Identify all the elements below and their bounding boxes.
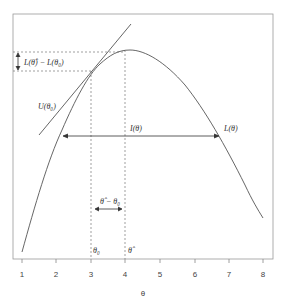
theta0-marker-label: θ₀ [93,246,100,255]
likelihood-diff-label: L(θ̂) − L(θ₀) [23,58,64,67]
thetahat-marker-label: θ̂ [128,246,135,255]
tick-label-8: 8 [261,270,266,279]
tick-label-7: 7 [227,270,232,279]
x-axis-label: θ [141,289,146,298]
tick-label-5: 5 [158,270,163,279]
likelihood-diagram: 1 2 3 4 5 6 7 8 θ L(θ̂) − L(θ₀) U(θ₀) I(… [0,0,283,302]
tick-label-6: 6 [193,270,198,279]
dashed-guides [13,50,125,259]
likelihood-curve-label: L(θ) [223,124,238,133]
tangent-line [39,24,131,135]
tick-label-1: 1 [20,270,25,279]
likelihood-diff-arrow [16,53,20,70]
likelihood-curve [22,50,263,252]
tick-label-4: 4 [123,270,128,279]
plot-frame [13,14,273,259]
information-arrow [63,134,219,138]
x-axis-tick-labels: 1 2 3 4 5 6 7 8 [20,270,266,279]
estimate-diff-arrow [95,207,122,211]
score-tangent-label: U(θ₀) [38,102,56,111]
x-axis-ticks [22,259,263,263]
estimate-diff-label: θ̂ − θ₀ [100,197,120,206]
tick-label-2: 2 [54,270,59,279]
tick-label-3: 3 [89,270,94,279]
information-label: I(θ) [129,124,142,133]
